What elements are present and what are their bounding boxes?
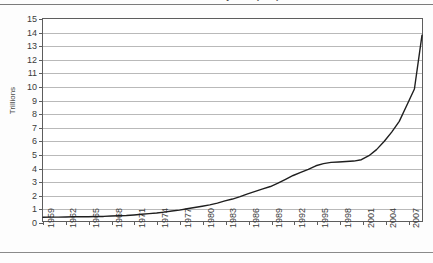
x-axis-tick <box>340 221 341 225</box>
chart-title: Total US Monetary Debt (US$) <box>0 0 433 3</box>
y-axis-tick-label: 13 <box>17 42 37 51</box>
x-axis-tick <box>294 221 295 225</box>
x-axis-tick <box>43 221 44 225</box>
chart-page: Total US Monetary Debt (US$) Trillions 1… <box>0 0 433 263</box>
data-series-line <box>43 19 422 221</box>
y-axis-tick-label: 7 <box>17 123 37 132</box>
x-axis-tick <box>249 221 250 225</box>
y-axis-tick-label: 5 <box>17 151 37 160</box>
y-axis-tick-label: 10 <box>17 83 37 92</box>
x-axis-tick <box>112 221 113 225</box>
y-axis-title: Trillions <box>8 73 17 129</box>
y-axis-tick-label: 15 <box>17 15 37 24</box>
y-axis-tick-label: 1 <box>17 205 37 214</box>
x-axis-tick <box>134 221 135 225</box>
x-axis-tick <box>272 221 273 225</box>
y-axis-tick-label: 11 <box>17 69 37 78</box>
y-axis-tick-label: 12 <box>17 55 37 64</box>
bottom-divider <box>0 252 433 253</box>
x-axis-tick <box>203 221 204 225</box>
y-axis-tick-label: 3 <box>17 178 37 187</box>
y-axis-tick-label: 0 <box>17 219 37 228</box>
y-axis-tick-label: 9 <box>17 96 37 105</box>
x-axis-tick <box>386 221 387 225</box>
x-axis-tick <box>409 221 410 225</box>
x-axis-tick <box>66 221 67 225</box>
x-axis-tick <box>157 221 158 225</box>
x-axis-tick <box>180 221 181 225</box>
y-axis-tick-label: 2 <box>17 191 37 200</box>
top-divider <box>0 4 433 5</box>
y-axis-tick-label: 14 <box>17 28 37 37</box>
y-axis-tick-label: 4 <box>17 164 37 173</box>
plot-area: 1514131211109876543210 19591962196519681… <box>42 18 423 222</box>
x-axis-tick <box>363 221 364 225</box>
y-axis-tick-label: 6 <box>17 137 37 146</box>
x-axis-tick <box>89 221 90 225</box>
x-axis-tick <box>317 221 318 225</box>
y-axis-tick-label: 8 <box>17 110 37 119</box>
x-axis-tick <box>226 221 227 225</box>
